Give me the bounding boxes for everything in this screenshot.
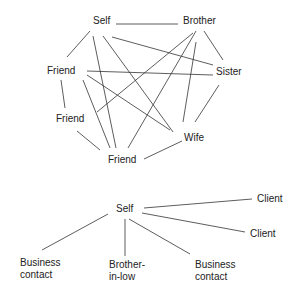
edge-brother-sister bbox=[204, 31, 223, 60]
edge-sister-wife bbox=[195, 85, 219, 122]
node-label-line: Friend bbox=[108, 154, 136, 165]
edge-self-client2 bbox=[142, 213, 245, 232]
node-label-line: Business bbox=[195, 259, 236, 270]
node-label-line: in-low bbox=[109, 271, 136, 282]
node-label-line: Friend bbox=[56, 113, 84, 124]
node-label-line: contact bbox=[195, 271, 227, 282]
edges-layer bbox=[42, 24, 252, 256]
node-label-self: Self bbox=[116, 203, 133, 214]
node-label-line: Brother bbox=[183, 15, 216, 26]
edge-self-client1 bbox=[144, 199, 252, 208]
edge-self-business-contact-right bbox=[129, 219, 190, 254]
edge-wife-friend3 bbox=[144, 141, 182, 159]
node-label-line: contact bbox=[20, 269, 52, 280]
node-label-self: Self bbox=[93, 15, 110, 26]
node-label-brother: Brother bbox=[183, 15, 216, 26]
node-label-friend2: Friend bbox=[56, 113, 84, 124]
node-label-line: Self bbox=[93, 15, 110, 26]
node-label-brother-in-law: Brother-in-low bbox=[109, 259, 145, 282]
network-diagrams: SelfBrotherFriendSisterFriendWifeFriendS… bbox=[0, 0, 297, 294]
edge-brother-friend3 bbox=[128, 31, 196, 148]
node-label-line: Sister bbox=[216, 66, 242, 77]
node-label-line: Brother- bbox=[109, 259, 145, 270]
node-label-client2: Client bbox=[250, 228, 276, 239]
edge-self-friend1 bbox=[67, 31, 90, 57]
node-label-line: Business bbox=[20, 257, 61, 268]
edge-friend1-friend2 bbox=[61, 80, 65, 108]
node-label-line: Client bbox=[250, 228, 276, 239]
edge-friend1-sister bbox=[87, 71, 213, 75]
node-label-friend3: Friend bbox=[108, 154, 136, 165]
labels-layer: SelfBrotherFriendSisterFriendWifeFriendS… bbox=[20, 15, 283, 282]
node-label-business-contact-right: Businesscontact bbox=[195, 259, 236, 282]
node-label-business-contact-left: Businesscontact bbox=[20, 257, 61, 280]
edge-self-wife bbox=[103, 36, 173, 132]
edge-self-sister bbox=[112, 37, 213, 65]
node-label-wife: Wife bbox=[184, 132, 204, 143]
edge-brother-wife bbox=[183, 42, 196, 122]
node-label-line: Wife bbox=[184, 132, 204, 143]
node-label-client1: Client bbox=[257, 193, 283, 204]
node-label-friend1: Friend bbox=[47, 65, 75, 76]
edge-friend1-friend3 bbox=[83, 80, 110, 148]
node-label-line: Client bbox=[257, 193, 283, 204]
node-label-line: Self bbox=[116, 203, 133, 214]
edge-self-business-contact-left bbox=[42, 214, 108, 250]
node-label-line: Friend bbox=[47, 65, 75, 76]
edge-friend2-friend3 bbox=[77, 131, 100, 150]
node-label-sister: Sister bbox=[216, 66, 242, 77]
